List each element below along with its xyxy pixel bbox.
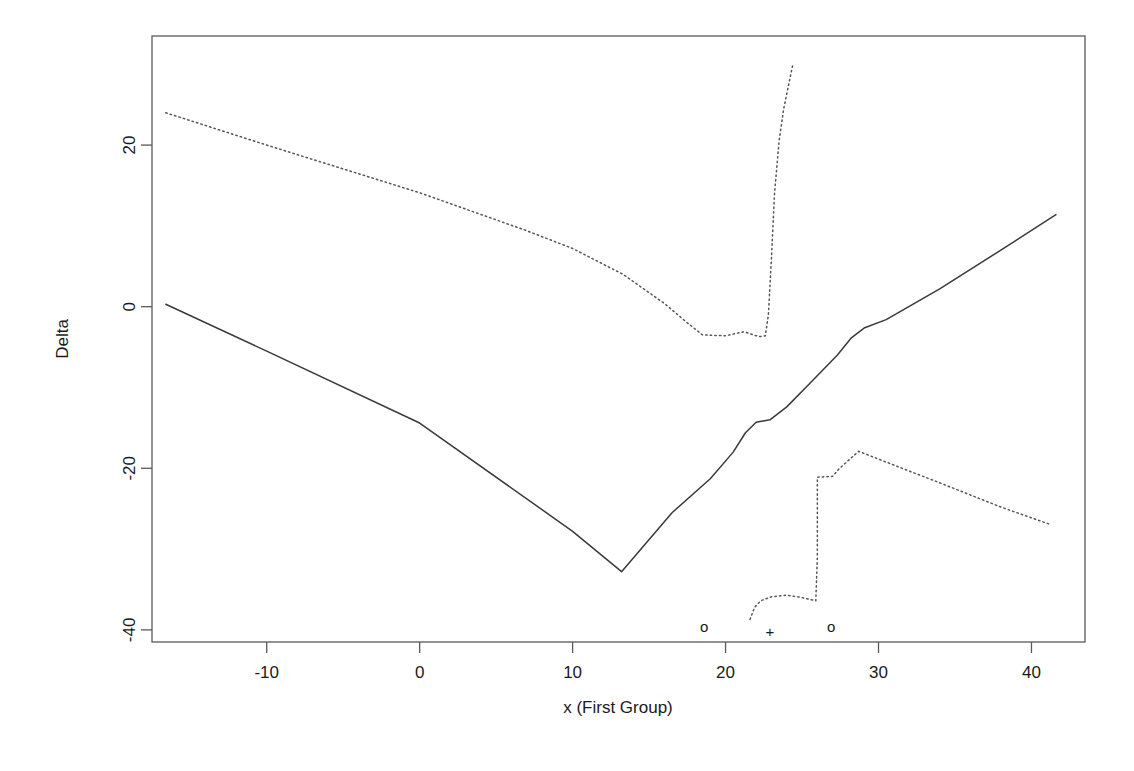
circle-marker-right: o (827, 618, 835, 635)
x-tick-label: 20 (716, 663, 735, 682)
x-axis-tick-labels: -10010203040 (254, 663, 1041, 682)
plot-frame (152, 36, 1085, 642)
y-tick-label: -40 (121, 618, 140, 643)
delta-vs-x-plot: -10010203040 200-20-40 o+o x (First Grou… (0, 0, 1134, 771)
y-axis-ticks (141, 145, 152, 630)
x-axis-title: x (First Group) (563, 698, 673, 717)
x-tick-label: 10 (563, 663, 582, 682)
x-axis-ticks (267, 642, 1032, 653)
data-series-group (166, 64, 1056, 619)
series-line-lower-confidence-band (750, 451, 1051, 619)
y-tick-label: -20 (121, 456, 140, 481)
bottom-markers-group: o+o (700, 618, 835, 640)
circle-marker-left: o (700, 618, 708, 635)
x-tick-label: -10 (254, 663, 279, 682)
y-tick-label: 0 (121, 302, 140, 311)
x-tick-label: 30 (869, 663, 888, 682)
series-line-estimate (166, 215, 1056, 572)
y-axis-tick-labels: 200-20-40 (121, 136, 140, 643)
x-tick-label: 40 (1022, 663, 1041, 682)
y-tick-label: 20 (121, 136, 140, 155)
plus-marker: + (766, 623, 775, 640)
series-line-upper-confidence-band (166, 64, 793, 336)
y-axis-title: Delta (53, 319, 72, 359)
x-tick-label: 0 (415, 663, 424, 682)
chart-canvas: -10010203040 200-20-40 o+o x (First Grou… (0, 0, 1134, 771)
